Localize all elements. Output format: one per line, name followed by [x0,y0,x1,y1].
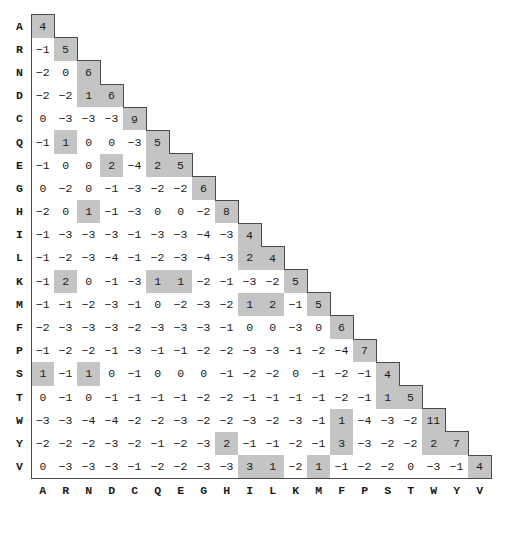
matrix-cell-w-c: −2 [123,409,146,432]
matrix-cell-empty [146,84,169,107]
matrix-cell-s-a: 1 [31,362,54,385]
matrix-cell-w-h: −2 [215,409,238,432]
matrix-cell-empty [169,84,192,107]
column-label-v: V [468,478,491,501]
matrix-cell-e-c: −4 [123,154,146,177]
matrix-cell-empty [238,38,261,61]
matrix-cell-empty [330,223,353,246]
matrix-cell-p-l: −3 [261,339,284,362]
matrix-cell-v-a: 0 [31,455,54,478]
matrix-cell-v-w: −3 [422,455,445,478]
matrix-cell-empty [238,177,261,200]
column-label-y: Y [445,478,468,501]
matrix-cell-k-l: −2 [261,270,284,293]
matrix-cell-empty [422,38,445,61]
column-label-n: N [77,478,100,501]
matrix-cell-empty [422,154,445,177]
matrix-cell-t-d: −1 [100,386,123,409]
matrix-cell-m-k: −1 [284,293,307,316]
matrix-cell-empty [399,316,422,339]
matrix-cell-e-e: 5 [169,154,192,177]
row-label-p: P [8,339,31,362]
matrix-cell-empty [307,38,330,61]
matrix-cell-empty [330,15,353,38]
matrix-cell-q-c: −3 [123,130,146,153]
matrix-cell-empty [468,84,491,107]
row-label-d: D [8,84,31,107]
matrix-cell-f-n: −3 [77,316,100,339]
matrix-cell-empty [376,15,399,38]
matrix-cell-empty [445,200,468,223]
matrix-cell-empty [445,107,468,130]
matrix-cell-empty [422,223,445,246]
matrix-cell-w-d: −4 [100,409,123,432]
matrix-cell-l-q: −2 [146,246,169,269]
column-label-h: H [215,478,238,501]
matrix-cell-f-g: −3 [192,316,215,339]
matrix-cell-empty [238,61,261,84]
matrix-cell-empty [399,130,422,153]
matrix-cell-empty [123,84,146,107]
matrix-cell-empty [146,61,169,84]
row-label-v: V [8,455,31,478]
matrix-cell-empty [422,84,445,107]
row-label-s: S [8,362,31,385]
matrix-cell-empty [468,316,491,339]
matrix-cell-s-e: 0 [169,362,192,385]
matrix-cell-s-m: −1 [307,362,330,385]
matrix-cell-e-d: 2 [100,154,123,177]
matrix-cell-empty [399,293,422,316]
matrix-row: Q−1100−35 [8,130,491,153]
row-label-w: W [8,409,31,432]
row-label-t: T [8,386,31,409]
matrix-cell-empty [192,38,215,61]
matrix-cell-t-q: −1 [146,386,169,409]
matrix-cell-empty [215,61,238,84]
matrix-cell-t-n: 0 [77,386,100,409]
matrix-cell-empty [399,15,422,38]
matrix-cell-empty [330,270,353,293]
matrix-cell-w-i: −3 [238,409,261,432]
matrix-cell-s-p: −1 [353,362,376,385]
matrix-cell-g-q: −2 [146,177,169,200]
matrix-cell-l-g: −4 [192,246,215,269]
matrix-cell-w-k: −3 [284,409,307,432]
matrix-cell-s-n: 1 [77,362,100,385]
matrix-row: G0−20−1−3−2−26 [8,177,491,200]
matrix-cell-w-a: −3 [31,409,54,432]
matrix-cell-empty [399,61,422,84]
matrix-cell-empty [215,38,238,61]
matrix-cell-empty [353,177,376,200]
matrix-cell-empty [169,15,192,38]
matrix-cell-y-c: −2 [123,432,146,455]
matrix-cell-empty [468,130,491,153]
matrix-cell-empty [215,177,238,200]
matrix-cell-v-v: 4 [468,455,491,478]
matrix-cell-empty [468,432,491,455]
matrix-cell-c-n: −3 [77,107,100,130]
row-label-f: F [8,316,31,339]
matrix-cell-empty [376,316,399,339]
matrix-cell-empty [330,61,353,84]
matrix-cell-empty [468,61,491,84]
matrix-cell-empty [284,61,307,84]
matrix-row: V0−3−3−3−1−2−2−3−331−21−1−2−20−3−14 [8,455,491,478]
matrix-cell-empty [399,107,422,130]
matrix-cell-empty [468,107,491,130]
matrix-cell-k-i: −3 [238,270,261,293]
matrix-cell-empty [192,61,215,84]
matrix-row: P−1−2−2−1−3−1−1−2−2−3−3−1−2−47 [8,339,491,362]
matrix-cell-v-h: −3 [215,455,238,478]
matrix-cell-y-h: 2 [215,432,238,455]
matrix-cell-h-a: −2 [31,200,54,223]
matrix-cell-h-e: 0 [169,200,192,223]
matrix-cell-q-n: 0 [77,130,100,153]
matrix-cell-f-f: 6 [330,316,353,339]
matrix-cell-n-a: −2 [31,61,54,84]
matrix-cell-empty [399,362,422,385]
matrix-cell-m-r: −1 [54,293,77,316]
matrix-cell-f-r: −3 [54,316,77,339]
matrix-cell-t-l: −1 [261,386,284,409]
matrix-cell-empty [468,409,491,432]
matrix-cell-f-d: −3 [100,316,123,339]
